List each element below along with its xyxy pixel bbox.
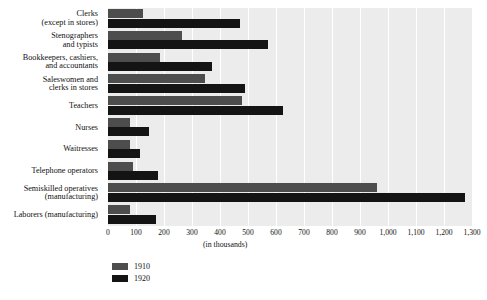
- category-label-line: (manufacturing): [45, 193, 98, 202]
- legend-item: 1910: [112, 262, 150, 271]
- x-tick-label: 600: [270, 228, 281, 237]
- bar-1910: [108, 53, 160, 62]
- bar-1920: [108, 40, 268, 49]
- category-label: Waitresses: [0, 139, 103, 161]
- bar-row: [108, 204, 472, 226]
- category-axis-labels: Clerks(except in stores)Stenographersand…: [0, 8, 103, 226]
- category-label: Clerks(except in stores): [0, 8, 103, 30]
- bar-1910: [108, 183, 377, 192]
- legend-label: 1920: [134, 274, 150, 283]
- bar-1920: [108, 127, 149, 136]
- x-tick-label: 200: [158, 228, 169, 237]
- legend-item: 1920: [112, 274, 150, 283]
- chart-root: Clerks(except in stores)Stenographersand…: [0, 0, 487, 300]
- category-label: Semiskilled operatives(manufacturing): [0, 182, 103, 204]
- bar-row: [108, 95, 472, 117]
- bar-1920: [108, 62, 212, 71]
- bar-1910: [108, 205, 130, 214]
- category-label: Telephone operators: [0, 161, 103, 183]
- x-tick-label: 800: [326, 228, 337, 237]
- bar-1920: [108, 193, 465, 202]
- bar-row: [108, 73, 472, 95]
- category-label-line: and accountants: [45, 62, 98, 71]
- bar-1910: [108, 118, 130, 127]
- bar-1920: [108, 19, 240, 28]
- category-label-line: clerks in stores: [49, 84, 98, 93]
- legend-swatch: [112, 263, 128, 270]
- bar-1910: [108, 140, 130, 149]
- x-tick-label: 1,000: [379, 228, 396, 237]
- x-tick-label: 400: [214, 228, 225, 237]
- category-label-line: Laborers (manufacturing): [14, 211, 98, 220]
- x-tick-label: 100: [130, 228, 141, 237]
- category-label: Nurses: [0, 117, 103, 139]
- x-tick-label: 1,100: [407, 228, 424, 237]
- bar-row: [108, 117, 472, 139]
- bar-1920: [108, 149, 140, 158]
- legend: 19101920: [112, 262, 150, 283]
- category-label-line: Teachers: [69, 102, 98, 111]
- x-tick-label: 900: [354, 228, 365, 237]
- bar-1910: [108, 9, 143, 18]
- bar-row: [108, 182, 472, 204]
- category-label: Laborers (manufacturing): [0, 204, 103, 226]
- category-label-line: (except in stores): [42, 19, 98, 28]
- bar-1920: [108, 171, 158, 180]
- category-label-line: Telephone operators: [32, 167, 99, 176]
- category-label: Stenographersand typists: [0, 30, 103, 52]
- x-axis-ticks: 01002003004005006007008009001,0001,1001,…: [108, 228, 472, 240]
- x-tick-label: 300: [186, 228, 197, 237]
- bar-row: [108, 8, 472, 30]
- bar-rows: [108, 8, 472, 226]
- bar-1910: [108, 31, 182, 40]
- x-tick-label: 500: [242, 228, 253, 237]
- category-label-line: Nurses: [75, 124, 98, 133]
- bar-1910: [108, 96, 242, 105]
- bar-row: [108, 139, 472, 161]
- category-label: Bookkeepers, cashiers,and accountants: [0, 52, 103, 74]
- x-tick-label: 1,200: [435, 228, 452, 237]
- x-tick-label: 1,300: [463, 228, 480, 237]
- bar-1910: [108, 162, 133, 171]
- x-axis-caption: (in thousands): [108, 240, 472, 249]
- bar-row: [108, 52, 472, 74]
- bar-row: [108, 30, 472, 52]
- bar-1910: [108, 74, 205, 83]
- category-label-line: and typists: [63, 41, 98, 50]
- x-tick-label: 700: [298, 228, 309, 237]
- bar-1920: [108, 215, 156, 224]
- legend-swatch: [112, 275, 128, 282]
- legend-label: 1910: [134, 262, 150, 271]
- bar-1920: [108, 84, 245, 93]
- category-label-line: Waitresses: [63, 145, 98, 154]
- category-label: Teachers: [0, 95, 103, 117]
- category-label: Saleswomen andclerks in stores: [0, 73, 103, 95]
- bar-1920: [108, 106, 283, 115]
- plot-area: [108, 8, 472, 226]
- gridline: [472, 8, 473, 226]
- x-tick-label: 0: [106, 228, 110, 237]
- bar-row: [108, 161, 472, 183]
